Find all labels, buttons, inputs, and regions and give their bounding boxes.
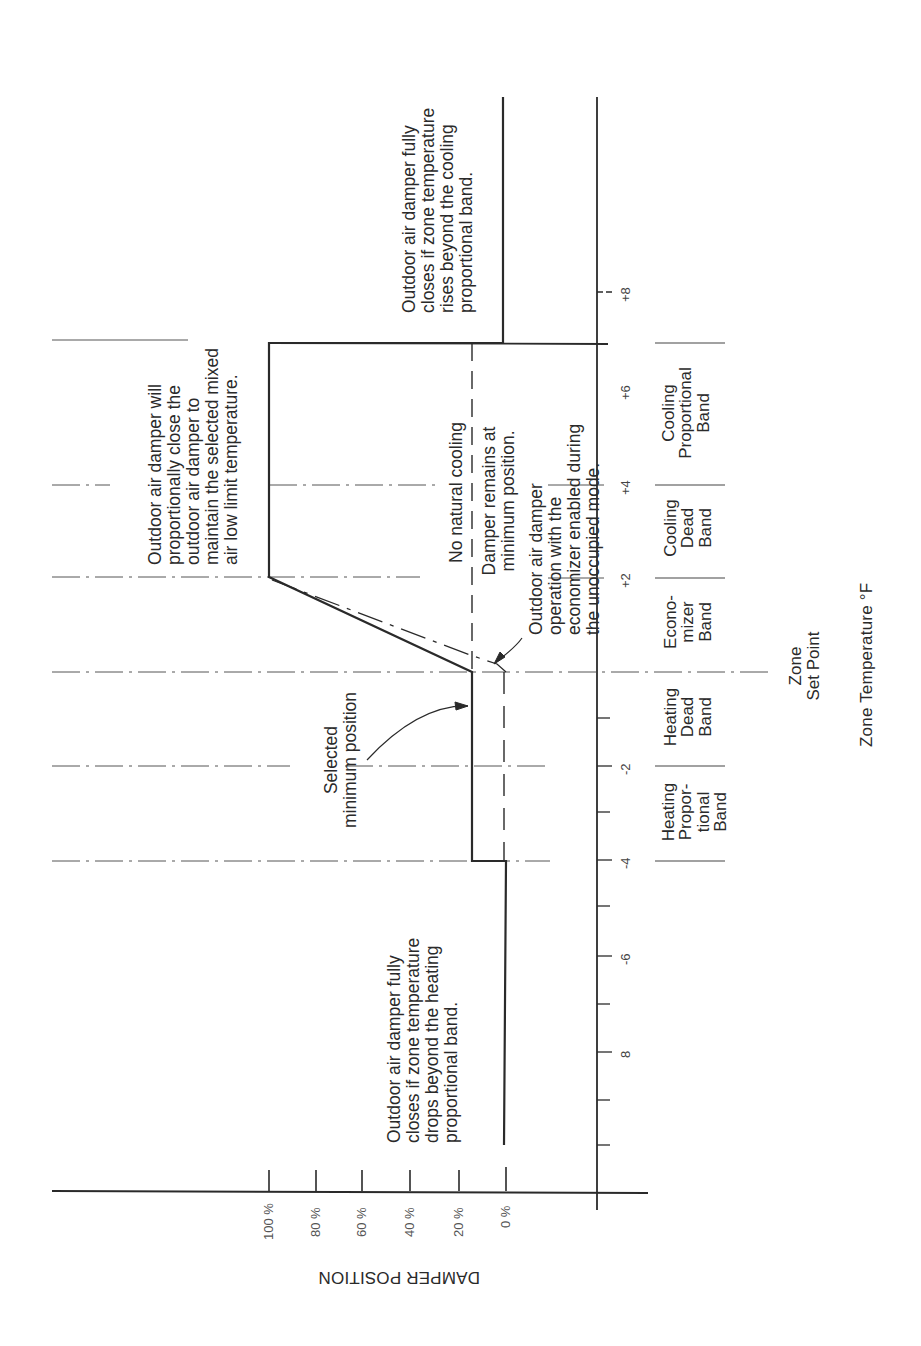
note-cooling-close: Outdoor air damper fully closes if zone … bbox=[400, 108, 476, 313]
pct-label-60: 60 % bbox=[355, 1207, 369, 1237]
temp-tick-plus8: +8 bbox=[619, 287, 633, 302]
band-label-cooling-proportional: Cooling Proportional Band bbox=[660, 346, 712, 480]
note-selected-min: Selected minimum position bbox=[322, 672, 360, 848]
band-label-cooling-dead: Cooling Dead Band bbox=[662, 486, 714, 570]
unoccupied-arrowhead bbox=[494, 652, 505, 664]
note-no-cooling: No natural cooling bbox=[447, 422, 466, 563]
band-label-heating-dead: Heating Dead Band bbox=[662, 675, 714, 759]
damper-axis-title: DAMPER POSITION bbox=[318, 1268, 480, 1286]
temp-tick-plus4: +4 bbox=[619, 480, 633, 495]
temp-tick-minus8: 8 bbox=[619, 1051, 633, 1058]
damper-axis bbox=[52, 1191, 648, 1193]
band-label-heating-proportional: Heating Propor- tional Band bbox=[660, 769, 729, 855]
pct-label-0: 0 % bbox=[499, 1206, 513, 1228]
note-unoccupied: Outdoor air damper operation with the ec… bbox=[527, 424, 603, 635]
temp-tick-minus6: -6 bbox=[619, 953, 633, 965]
damper-axis-ticks bbox=[269, 1167, 506, 1191]
temp-tick-plus6: +6 bbox=[619, 385, 633, 400]
temperature-axis-ticks bbox=[597, 292, 612, 1145]
pct-label-80: 80 % bbox=[309, 1207, 323, 1237]
selected-min-leader bbox=[367, 706, 468, 760]
setpoint-label: Zone Set Point bbox=[787, 626, 824, 706]
temp-tick-minus2: -2 bbox=[619, 763, 633, 775]
pct-label-100: 100 % bbox=[262, 1203, 276, 1240]
temperature-axis-title: Zone Temperature °F bbox=[858, 583, 876, 747]
temp-tick-plus2: +2 bbox=[619, 573, 633, 588]
band-label-economizer: Econo- mizer Band bbox=[662, 580, 714, 664]
pct-label-40: 40 % bbox=[403, 1207, 417, 1237]
note-heating-close: Outdoor air damper fully closes if zone … bbox=[385, 938, 461, 1143]
temp-tick-minus4: -4 bbox=[619, 857, 633, 869]
note-remains-min: Damper remains at minimum position. bbox=[480, 420, 518, 582]
pct-label-20: 20 % bbox=[452, 1207, 466, 1237]
selected-min-arrowhead bbox=[455, 702, 468, 710]
note-proportional-close: Outdoor air damper will proportionally c… bbox=[146, 348, 240, 565]
damper-curve-unoccupied bbox=[272, 580, 506, 672]
